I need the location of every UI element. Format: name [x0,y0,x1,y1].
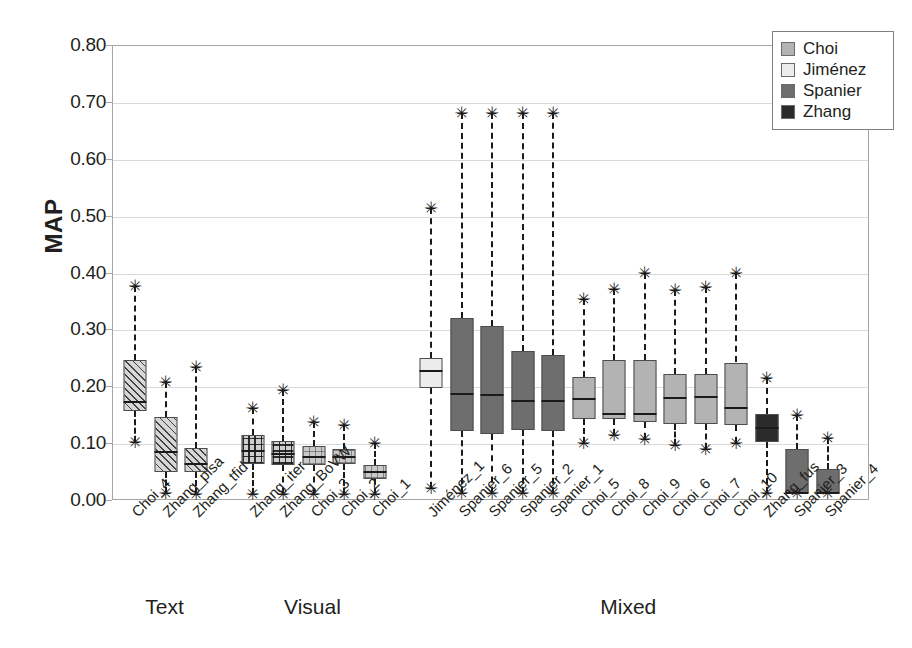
legend-swatch-icon [781,84,795,98]
group-label-visual: Visual [253,595,373,619]
median-line [154,451,177,453]
whisker-upper [430,208,432,358]
chart-root: 0.000.100.200.300.400.500.600.700.80 MAP… [0,0,912,648]
outlier-marker: ✳ [729,269,743,277]
y-axis-tick-label: 0.20 [36,375,106,397]
outlier-marker: ✳ [306,418,320,426]
box [694,374,717,424]
median-line [511,400,534,402]
legend-label: Spanier [803,82,862,99]
median-line [572,398,595,400]
legend-swatch-icon [781,105,795,119]
outlier-marker: ✳ [485,109,499,117]
median-line [633,413,656,415]
outlier-marker: ✳ [729,439,743,447]
outlier-marker: ✳ [515,109,529,117]
legend-label: Zhang [803,103,851,120]
y-axis-tick-label: 0.70 [36,91,106,113]
outlier-marker: ✳ [158,378,172,386]
outlier-marker: ✳ [698,445,712,453]
median-line [450,393,473,395]
box [725,363,748,426]
box [420,358,443,388]
outlier-marker: ✳ [245,404,259,412]
whisker-upper [195,367,197,448]
outlier-marker: ✳ [337,421,351,429]
box [664,374,687,424]
legend-label: Choi [803,40,838,57]
legend-item[interactable]: Choi [781,38,885,59]
legend-item[interactable]: Jiménez [781,59,885,80]
outlier-marker: ✳ [637,269,651,277]
median-line [603,413,626,415]
outlier-marker: ✳ [637,435,651,443]
box [542,355,565,431]
outlier-marker: ✳ [454,109,468,117]
box [481,326,504,434]
y-axis-tick-label: 0.30 [36,318,106,340]
legend-swatch-icon [781,42,795,56]
outlier-marker: ✳ [367,439,381,447]
outlier-marker: ✳ [576,295,590,303]
outlier-marker: ✳ [128,282,142,290]
y-axis-tick-label: 0.80 [36,34,106,56]
x-axis-labels: Choi_4Zhang_plsaZhang_tfidZhang_iterZhan… [0,506,912,596]
outlier-marker: ✳ [668,441,682,449]
whisker-upper [613,289,615,360]
group-label-text: Text [105,595,225,619]
whisker-upper [491,113,493,325]
outlier-marker: ✳ [546,109,560,117]
box [450,318,473,431]
outlier-marker: ✳ [790,411,804,419]
plot-area: ✳✳✳✳✳✳✳✳✳✳✳✳✳✳✳✳✳✳✳✳✳✳✳✳✳✳✳✳✳✳✳✳✳✳✳✳✳✳✳✳… [112,45,869,500]
outlier-marker: ✳ [607,285,621,293]
y-axis-title: MAP [40,166,68,286]
outlier-marker: ✳ [820,434,834,442]
whisker-upper [583,299,585,377]
whisker-upper [522,113,524,351]
median-line [241,450,264,452]
legend-label: Jiménez [803,61,866,78]
median-line [694,396,717,398]
whisker-upper [552,113,554,355]
median-line [664,397,687,399]
outlier-marker: ✳ [128,438,142,446]
outlier-marker: ✳ [607,431,621,439]
median-line [272,453,295,455]
box [603,360,626,420]
median-line [542,400,565,402]
whisker-upper [674,290,676,374]
median-line [481,394,504,396]
group-labels: TextVisualMixed [0,595,912,635]
outlier-marker: ✳ [576,439,590,447]
box [154,417,177,472]
whisker-upper [461,113,463,318]
legend-swatch-icon [781,63,795,77]
group-label-mixed: Mixed [568,595,688,619]
legend: ChoiJiménezSpanierZhang [772,31,894,130]
whisker-upper [705,287,707,373]
legend-item[interactable]: Spanier [781,80,885,101]
median-line [302,456,325,458]
median-line [755,427,778,429]
outlier-marker: ✳ [424,484,438,492]
outlier-marker: ✳ [759,374,773,382]
outlier-marker: ✳ [424,204,438,212]
whisker-upper [644,273,646,360]
median-line [725,407,748,409]
whisker-upper [735,273,737,363]
box [511,351,534,429]
outlier-marker: ✳ [276,386,290,394]
median-line [124,401,147,403]
y-axis-tick-label: 0.10 [36,432,106,454]
median-line [363,471,386,473]
outlier-marker: ✳ [189,363,203,371]
whisker-lower [430,388,432,488]
y-axis-tick-mark [106,500,112,501]
legend-item[interactable]: Zhang [781,101,885,122]
outlier-marker: ✳ [698,283,712,291]
whisker-upper [134,286,136,360]
outlier-marker: ✳ [668,286,682,294]
median-line [420,370,443,372]
